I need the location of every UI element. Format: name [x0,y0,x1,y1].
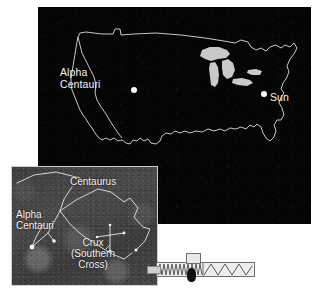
crux-star-gamma [109,224,112,227]
crux-label-line2: (Southern [62,248,124,259]
alpha-centauri-map-label-line1: Alpha [60,67,101,79]
beta-centauri-star [52,239,56,243]
lake-superior [200,47,230,61]
alpha-centauri-star [30,245,35,250]
alpha-centauri-map-label-line2: Centauri [60,79,101,91]
lake-erie [232,78,253,86]
great-lakes-group [200,47,262,87]
lake-michigan [209,62,219,87]
alpha-centauri-sky-label-line2: Centauri [16,220,54,231]
crux-label: Crux (Southern Cross) [62,237,124,270]
scale-bar-svg [156,262,255,277]
crux-label-line3: Cross) [62,259,124,270]
alpha-centauri-map-label: Alpha Centauri [60,67,101,90]
alpha-centauri-sky-label: Alpha Centauri [16,209,54,231]
sun-map-marker [261,91,267,97]
lake-ontario [247,69,262,75]
centaurus-star-outer [134,248,137,251]
us-border-path [71,29,297,144]
southern-sky-photograph: Centaurus Alpha Centauri Crux (Southern … [12,167,157,285]
lake-huron [222,59,235,79]
alpha-centauri-sky-label-line1: Alpha [16,209,54,220]
alpha-centauri-map-marker [131,87,137,93]
scale-bar-pointer-blob [187,268,196,282]
sun-map-label: Sun [270,92,289,104]
centaurus-label: Centaurus [70,176,116,187]
scale-bar-left-stub [147,266,161,274]
crux-label-line1: Crux [62,237,124,248]
figure-root: Alpha Centauri Sun [0,0,327,293]
scale-bar-graphic [156,262,255,277]
crux-star-beta [123,232,126,235]
scale-bar-tag [186,253,201,264]
